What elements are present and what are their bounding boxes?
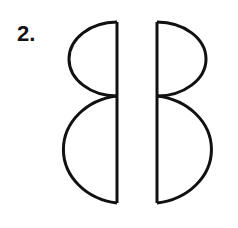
mirrored-b-figure bbox=[0, 0, 238, 228]
left-mirrored-b-shape bbox=[63, 22, 117, 203]
right-b-shape bbox=[157, 22, 211, 203]
